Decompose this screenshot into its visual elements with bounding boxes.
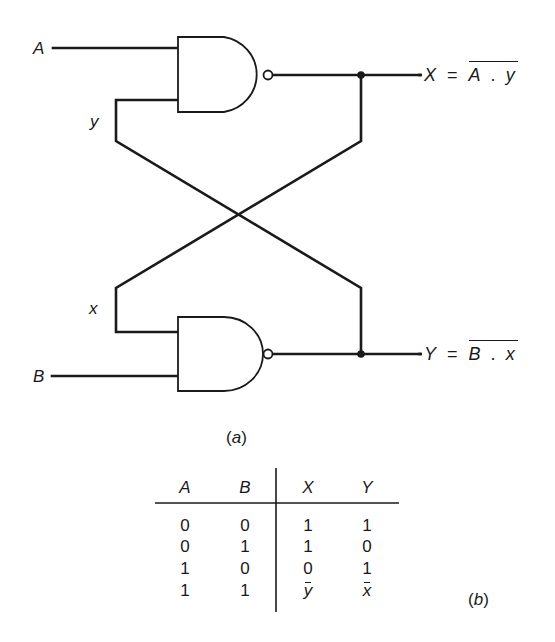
header-y: Y bbox=[352, 479, 382, 496]
wire-feedback-y bbox=[116, 100, 361, 354]
input-label-b: B bbox=[33, 368, 44, 385]
nand-gate-top bbox=[178, 37, 273, 112]
nand-gate-bottom bbox=[178, 317, 273, 391]
table-cell: 1 bbox=[170, 582, 200, 599]
table-cell: 1 bbox=[293, 517, 323, 534]
table-cell: 0 bbox=[352, 538, 382, 555]
feedback-label-y: y bbox=[90, 113, 99, 130]
table-cell: 1 bbox=[293, 538, 323, 555]
header-b: B bbox=[230, 479, 260, 496]
caption-b: (b) bbox=[468, 591, 489, 608]
feedback-label-x: x bbox=[89, 300, 98, 317]
input-label-a: A bbox=[33, 40, 44, 57]
header-x: X bbox=[293, 479, 323, 496]
table-cell-x-bar: x bbox=[352, 582, 382, 599]
output-equation-y: Y = B . x bbox=[424, 345, 515, 363]
table-cell: 0 bbox=[293, 560, 323, 577]
table-cell: 1 bbox=[230, 538, 260, 555]
caption-a: (a) bbox=[226, 429, 247, 446]
table-cell: 1 bbox=[352, 517, 382, 534]
table-cell: 0 bbox=[230, 517, 260, 534]
inversion-bubble-icon bbox=[264, 71, 273, 80]
overline-expression: B . x bbox=[469, 345, 515, 363]
header-a: A bbox=[170, 479, 200, 496]
wire-feedback-x bbox=[116, 75, 361, 332]
junction-dot-top bbox=[357, 71, 365, 79]
table-cell: 0 bbox=[170, 517, 200, 534]
table-cell: 0 bbox=[230, 560, 260, 577]
table-cell: 0 bbox=[170, 538, 200, 555]
table-cell: 1 bbox=[170, 560, 200, 577]
table-cell: 1 bbox=[230, 582, 260, 599]
output-equation-x: X = A . y bbox=[424, 66, 515, 84]
latch-circuit-diagram bbox=[0, 0, 555, 642]
table-cell-y-bar: y bbox=[293, 582, 323, 599]
overline-expression: A . y bbox=[469, 66, 515, 84]
inversion-bubble-icon bbox=[264, 350, 273, 359]
table-cell: 1 bbox=[352, 560, 382, 577]
junction-dot-bottom bbox=[357, 350, 365, 358]
